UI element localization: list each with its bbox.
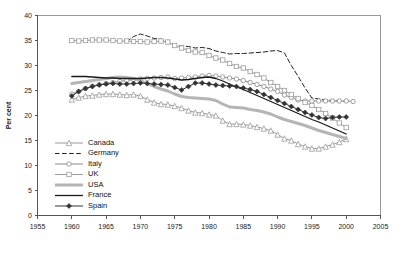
data-point-marker [289,104,294,109]
data-point-marker [179,105,184,110]
data-point-marker [118,39,122,43]
data-point-marker [268,95,273,100]
data-point-marker [255,82,259,86]
y-tick-label: 5 [28,187,32,194]
legend-item-spain: Spain [55,201,107,210]
data-point-marker [317,99,321,103]
data-point-marker [158,82,163,87]
data-point-marker [316,115,321,120]
data-point-marker [221,75,225,79]
data-point-marker [275,84,279,88]
x-tick-label: 1995 [304,223,320,230]
data-point-marker [261,92,266,97]
data-point-marker [131,81,136,86]
data-point-marker [269,80,273,84]
legend-label: France [88,190,111,199]
data-point-marker [193,50,197,54]
data-point-marker [351,99,355,103]
data-point-marker [76,39,80,43]
line-chart: CanadaGermanyItalyUKUSAFranceSpain 05101… [0,0,408,265]
data-point-marker [323,116,328,121]
data-point-marker [289,138,294,143]
data-point-marker [302,144,307,149]
data-point-marker [186,84,191,89]
data-point-marker [166,40,170,44]
legend-label: Italy [88,159,102,168]
x-tick-label: 1990 [270,223,286,230]
legend-item-uk: UK [55,169,98,178]
x-tick-label: 1965 [98,223,114,230]
data-point-marker [330,99,334,103]
data-point-marker [337,115,342,120]
data-point-marker [248,69,252,73]
data-point-marker [275,89,279,93]
x-tick-label: 1980 [201,223,217,230]
data-point-marker [282,101,287,106]
data-point-marker [323,111,327,115]
x-tick-label: 2000 [338,223,354,230]
data-point-marker [67,172,71,176]
data-point-marker [213,83,218,88]
legend-label: Spain [88,201,107,210]
data-point-marker [83,38,87,42]
data-point-marker [234,64,238,68]
data-point-marker [344,125,348,129]
data-point-marker [275,132,280,137]
legend-item-italy: Italy [55,159,102,168]
y-tick-label: 30 [24,62,32,69]
data-point-marker [173,43,177,47]
y-tick-label: 10 [24,162,32,169]
data-point-marker [165,83,170,88]
data-point-marker [337,139,342,144]
x-tick-label: 1985 [236,223,252,230]
data-point-marker [248,80,252,84]
data-point-marker [344,99,348,103]
data-point-marker [159,39,163,43]
data-point-marker [268,128,273,133]
legend-label: Canada [88,138,115,147]
data-point-marker [124,39,128,43]
x-tick-label: 1975 [167,223,183,230]
data-point-marker [262,84,266,88]
data-point-marker [310,99,314,103]
legend-label: UK [88,169,98,178]
data-point-marker [227,76,231,80]
data-point-marker [255,72,259,76]
data-point-marker [221,58,225,62]
data-point-marker [269,87,273,91]
data-point-marker [67,162,71,166]
data-point-marker [97,38,101,42]
data-point-marker [289,92,293,96]
data-point-marker [220,83,225,88]
data-point-marker [67,204,72,209]
data-point-marker [296,107,301,112]
data-point-marker [179,46,183,50]
data-point-marker [172,85,177,90]
x-tick-label: 1960 [64,223,80,230]
legend-item-france: France [55,190,111,199]
data-point-marker [200,50,204,54]
data-point-marker [145,97,150,102]
data-point-marker [275,98,280,103]
data-point-marker [282,136,287,141]
series-group [69,34,355,151]
data-point-marker [214,56,218,60]
data-point-marker [207,82,212,87]
chart-legend: CanadaGermanyItalyUKUSAFranceSpain [55,138,119,210]
y-tick-label: 35 [24,37,32,44]
data-point-marker [310,103,314,107]
data-point-marker [317,107,321,111]
y-tick-label: 20 [24,112,32,119]
data-point-marker [330,142,335,147]
data-point-marker [152,39,156,43]
data-point-marker [282,93,286,97]
data-point-marker [255,89,260,94]
data-point-marker [241,78,245,82]
series-line [72,76,353,102]
data-point-marker [193,81,198,86]
data-point-marker [227,61,231,65]
data-point-marker [282,88,286,92]
x-tick-label: 1970 [133,223,149,230]
data-point-marker [104,38,108,42]
data-point-marker [337,99,341,103]
